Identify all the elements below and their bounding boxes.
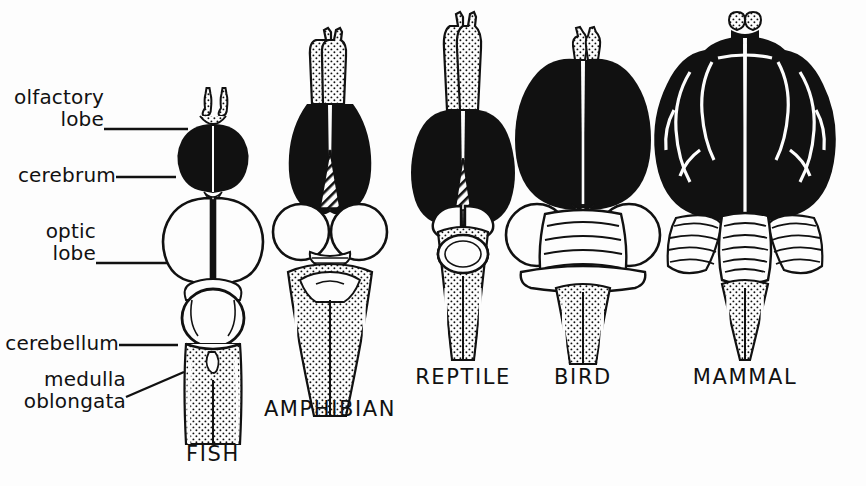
fish-cerebellum <box>182 279 244 347</box>
label-cerebrum: cerebrum <box>0 164 116 186</box>
specimen-mammal <box>654 12 836 360</box>
amphibian-optic-lobe <box>273 204 387 260</box>
mammal-olfactory-lobe <box>729 12 761 38</box>
specimen-fish <box>163 88 263 444</box>
caption-amphibian: AMPHIBIAN <box>250 398 410 422</box>
brain-comparison-figure: olfactory lobe cerebrum optic lobe cereb… <box>0 0 866 486</box>
amphibian-medulla-oblongata <box>288 264 372 416</box>
amphibian-olfactory-lobe <box>310 28 346 104</box>
mammal-cerebrum <box>654 36 836 225</box>
bird-medulla-oblongata <box>556 284 610 364</box>
mammal-medulla-oblongata <box>722 280 768 360</box>
label-medulla-oblongata: medulla oblongata <box>0 368 126 413</box>
bird-olfactory-lobe <box>573 27 600 60</box>
leader-medulla-oblongata <box>126 372 184 397</box>
fish-cerebrum <box>177 124 248 200</box>
specimen-amphibian <box>273 28 387 416</box>
caption-reptile: REPTILE <box>393 366 533 390</box>
bird-cerebrum <box>515 59 651 214</box>
label-olfactory-lobe: olfactory lobe <box>0 86 104 131</box>
specimen-bird <box>506 27 660 364</box>
caption-bird: BIRD <box>528 366 638 390</box>
brain-diagram-artwork <box>0 0 866 486</box>
reptile-olfactory-lobe <box>444 12 481 110</box>
label-cerebellum: cerebellum <box>0 332 119 354</box>
mammal-cerebellum <box>668 213 823 284</box>
caption-mammal: MAMMAL <box>665 366 825 390</box>
caption-fish: FISH <box>153 443 273 467</box>
label-optic-lobe: optic lobe <box>0 220 96 265</box>
reptile-medulla-oblongata <box>438 227 488 360</box>
fish-medulla-oblongata <box>185 344 242 444</box>
reptile-cerebrum <box>411 110 515 226</box>
fish-optic-lobe <box>163 198 263 284</box>
amphibian-cerebrum <box>289 104 372 214</box>
specimen-reptile <box>411 12 515 360</box>
fish-olfactory-lobe <box>200 88 227 124</box>
